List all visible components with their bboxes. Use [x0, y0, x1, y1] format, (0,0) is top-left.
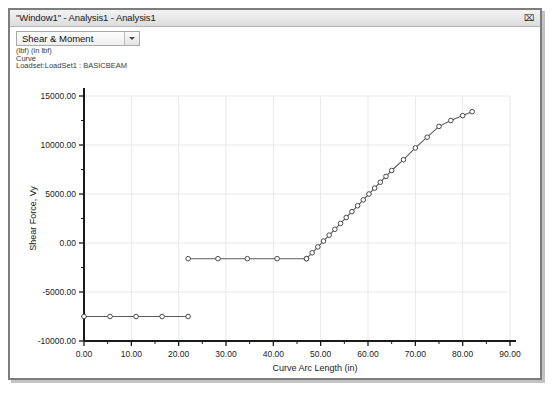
window-title: "Window1" - Analysis1 - Analysis1 [16, 12, 156, 23]
data-point-marker [350, 209, 355, 214]
data-point-marker [186, 314, 191, 319]
close-icon[interactable]: ⌧ [523, 12, 535, 24]
x-tick-label: 10.00 [121, 349, 143, 359]
x-tick-label: 70.00 [405, 349, 427, 359]
y-tick-label: 10000.00 [41, 140, 77, 150]
data-point-marker [333, 227, 338, 232]
data-point-marker [449, 118, 454, 123]
view-type-select-value: Shear & Moment [22, 33, 93, 44]
data-point-marker [82, 314, 87, 319]
data-point-marker [425, 135, 430, 140]
data-point-marker [389, 168, 394, 173]
data-point-marker [321, 239, 326, 244]
data-point-marker [361, 198, 366, 203]
data-point-marker [378, 180, 383, 185]
data-point-marker [413, 146, 418, 151]
data-point-marker [216, 256, 221, 261]
x-tick-label: 30.00 [215, 349, 237, 359]
data-point-marker [338, 221, 343, 226]
data-point-marker [355, 203, 360, 208]
view-select-row: Shear & Moment [16, 31, 140, 46]
analysis-window: "Window1" - Analysis1 - Analysis1 ⌧ Shea… [8, 8, 542, 380]
axis-labels-layer: Curve Arc Length (in)Shear Force, Vy [28, 186, 358, 373]
y-tick-label: 5000.00 [45, 189, 76, 199]
x-axis-label: Curve Arc Length (in) [272, 363, 357, 373]
data-point-marker [316, 245, 321, 250]
y-tick-label: -10000.00 [38, 336, 77, 346]
data-point-marker [401, 157, 406, 162]
x-tick-label: 60.00 [357, 349, 379, 359]
y-tick-label: 0.00 [59, 238, 76, 248]
data-point-marker [160, 314, 165, 319]
x-tick-label: 0.00 [76, 349, 93, 359]
data-point-marker [310, 251, 315, 256]
x-tick-label: 90.00 [499, 349, 521, 359]
y-tick-label: -5000.00 [42, 287, 76, 297]
data-point-marker [186, 256, 191, 261]
x-tick-label: 50.00 [310, 349, 332, 359]
data-point-marker [367, 192, 372, 197]
ticks-layer [79, 96, 510, 346]
x-tick-label: 80.00 [452, 349, 474, 359]
data-point-marker [245, 256, 250, 261]
data-point-marker [327, 233, 332, 238]
window-title-bar: "Window1" - Analysis1 - Analysis1 ⌧ [10, 10, 540, 27]
data-point-marker [460, 113, 465, 118]
view-type-select[interactable]: Shear & Moment [16, 31, 140, 46]
plot-header-annotations: (lbf) (in lbf) Curve Loadset:LoadSet1 : … [16, 47, 127, 70]
axes-layer [84, 88, 516, 341]
data-point-marker [304, 256, 309, 261]
y-axis-label: Shear Force, Vy [28, 186, 38, 251]
data-point-marker [134, 314, 139, 319]
grid-layer [84, 96, 510, 341]
x-tick-label: 40.00 [263, 349, 285, 359]
data-point-marker [384, 174, 389, 179]
y-tick-label: 15000.00 [41, 91, 77, 101]
shear-force-line-chart: -10000.00-5000.000.005000.0010000.001500… [10, 68, 540, 378]
chart-plot-area: -10000.00-5000.000.005000.0010000.001500… [10, 68, 540, 378]
data-point-marker [372, 186, 377, 191]
x-tick-label: 20.00 [168, 349, 190, 359]
data-point-marker [470, 109, 475, 114]
data-point-marker [437, 124, 442, 129]
data-point-marker [275, 256, 280, 261]
data-point-marker [108, 314, 113, 319]
data-point-marker [344, 215, 349, 220]
chevron-down-icon[interactable] [124, 32, 139, 45]
